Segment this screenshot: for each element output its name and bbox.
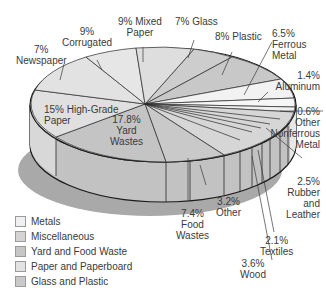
label-corrugated-name: Corrugated: [62, 37, 112, 48]
label-textiles: 2.1% Textiles: [260, 235, 293, 257]
label-food-wastes: 7.4% Food Wastes: [176, 208, 209, 241]
label-ferrous: 6.5% Ferrous Metal: [272, 28, 306, 61]
label-plastic: 8% Plastic: [215, 31, 262, 42]
legend-label: Yard and Food Waste: [31, 246, 127, 257]
chart-legend: Metals Miscellaneous Yard and Food Waste…: [15, 214, 132, 289]
legend-item-yard-food: Yard and Food Waste: [15, 244, 132, 259]
label-wood-name: Wood: [240, 269, 266, 280]
label-nonferrous-pct: 0.6%: [271, 106, 320, 117]
legend-label: Glass and Plastic: [31, 276, 108, 287]
label-high-grade-paper: 15% High-Grade Paper: [44, 104, 118, 126]
label-highgrade-l1: 15% High-Grade: [44, 104, 118, 115]
label-food-l2: Wastes: [176, 230, 209, 241]
label-newspaper-pct: 7%: [16, 44, 67, 55]
label-mixed-paper-pct: 9% Mixed: [118, 16, 162, 27]
label-newspaper-name: Newspaper: [16, 55, 67, 66]
label-rubber: 2.5% Rubber and Leather: [286, 176, 320, 220]
label-textiles-name: Textiles: [260, 246, 293, 257]
legend-label: Miscellaneous: [31, 231, 94, 242]
label-rubber-l2: and: [286, 198, 320, 209]
legend-swatch: [15, 261, 26, 272]
label-rubber-l3: Leather: [286, 209, 320, 220]
legend-item-glass-plastic: Glass and Plastic: [15, 274, 132, 289]
label-yard-l1: Yard: [110, 125, 143, 136]
label-newspaper: 7% Newspaper: [16, 44, 67, 66]
label-food-l1: Food: [176, 219, 209, 230]
label-other-name: Other: [216, 207, 241, 218]
label-textiles-pct: 2.1%: [260, 235, 293, 246]
label-aluminum: 1.4% Aluminum: [276, 70, 320, 92]
label-wood: 3.6% Wood: [240, 258, 266, 280]
label-nonferrous-l2: Nonferrous: [271, 128, 320, 139]
label-nonferrous: 0.6% Other Nonferrous Metal: [271, 106, 320, 150]
legend-label: Paper and Paperboard: [31, 261, 132, 272]
label-corrugated-pct: 9%: [62, 26, 112, 37]
label-ferrous-l1: Ferrous: [272, 39, 306, 50]
legend-item-metals: Metals: [15, 214, 132, 229]
label-mixed-paper: 9% Mixed Paper: [118, 16, 162, 38]
label-glass: 7% Glass: [175, 16, 218, 27]
label-mixed-paper-name: Paper: [118, 27, 162, 38]
legend-swatch: [15, 276, 26, 287]
legend-swatch: [15, 216, 26, 227]
label-yard-l2: Wastes: [110, 136, 143, 147]
label-aluminum-pct: 1.4%: [276, 70, 320, 81]
label-aluminum-name: Aluminum: [276, 81, 320, 92]
label-rubber-pct: 2.5%: [286, 176, 320, 187]
label-rubber-l1: Rubber: [286, 187, 320, 198]
label-nonferrous-l1: Other: [271, 117, 320, 128]
label-wood-pct: 3.6%: [240, 258, 266, 269]
legend-item-miscellaneous: Miscellaneous: [15, 229, 132, 244]
legend-item-paper: Paper and Paperboard: [15, 259, 132, 274]
label-ferrous-l2: Metal: [272, 50, 306, 61]
legend-swatch: [15, 231, 26, 242]
label-other-pct: 3.2%: [216, 196, 241, 207]
label-food-pct: 7.4%: [176, 208, 209, 219]
legend-swatch: [15, 246, 26, 257]
label-corrugated: 9% Corrugated: [62, 26, 112, 48]
label-ferrous-pct: 6.5%: [272, 28, 306, 39]
legend-label: Metals: [31, 216, 60, 227]
label-highgrade-l2: Paper: [44, 115, 118, 126]
label-other: 3.2% Other: [216, 196, 241, 218]
label-nonferrous-l3: Metal: [271, 139, 320, 150]
